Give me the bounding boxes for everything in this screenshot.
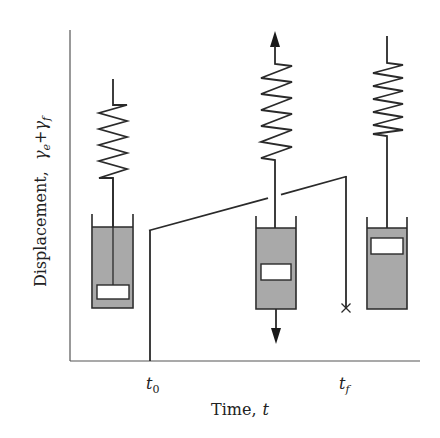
piston bbox=[97, 285, 129, 299]
y-label-gamma-e: γ bbox=[31, 150, 50, 160]
y-axis-label: Displacement, γe+γf bbox=[31, 115, 53, 287]
y-label-sub-f: f bbox=[40, 115, 53, 122]
svg-text:t0: t0 bbox=[146, 374, 159, 396]
x-tick-t0: t0 bbox=[146, 374, 159, 396]
maxwell-model-after-unloading bbox=[367, 36, 407, 309]
maxwell-model-before-loading bbox=[92, 79, 133, 308]
svg-text:Displacement, γe+γf: Displacement, γe+γf bbox=[31, 115, 53, 287]
arrow-up-icon bbox=[270, 31, 280, 47]
t0-sub: 0 bbox=[152, 383, 159, 396]
piston bbox=[261, 264, 291, 280]
dashpot-icon bbox=[92, 178, 133, 308]
response-curve bbox=[149, 176, 351, 361]
creep-line-right bbox=[281, 177, 347, 195]
maxwell-creep-diagram: Displacement, γe+γf t0 tf Time,t bbox=[0, 0, 440, 438]
y-label-main: Displacement, bbox=[31, 171, 50, 287]
x-label-main: Time, bbox=[211, 400, 257, 419]
x-label-var: t bbox=[263, 400, 270, 419]
dashpot-icon bbox=[367, 217, 407, 309]
tf-sub: f bbox=[344, 383, 351, 396]
maxwell-model-under-load bbox=[256, 31, 296, 344]
dashpot-icon bbox=[256, 216, 296, 330]
arrow-down-icon bbox=[271, 328, 281, 344]
y-label-plus: + bbox=[31, 131, 50, 144]
x-axis-label: Time,t bbox=[211, 400, 270, 419]
piston bbox=[371, 238, 403, 254]
spring-icon bbox=[373, 36, 403, 238]
y-label-gamma-f: γ bbox=[31, 121, 50, 131]
axes bbox=[70, 30, 420, 361]
x-tick-tf: tf bbox=[339, 374, 351, 396]
svg-text:Time,t: Time,t bbox=[211, 400, 270, 419]
svg-text:tf: tf bbox=[339, 374, 351, 396]
creep-line-left bbox=[149, 198, 268, 230]
